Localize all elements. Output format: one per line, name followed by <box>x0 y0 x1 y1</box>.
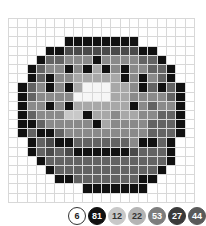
grid-cell[interactable] <box>83 74 92 83</box>
grid-cell[interactable] <box>37 93 46 102</box>
grid-cell[interactable] <box>74 37 83 46</box>
grid-cell[interactable] <box>186 37 195 46</box>
grid-cell[interactable] <box>167 102 176 111</box>
grid-cell[interactable] <box>18 120 27 129</box>
grid-cell[interactable] <box>83 111 92 120</box>
grid-cell[interactable] <box>28 111 37 120</box>
grid-cell[interactable] <box>121 28 130 37</box>
grid-cell[interactable] <box>102 184 111 193</box>
grid-cell[interactable] <box>130 175 139 184</box>
palette-swatch[interactable]: 44 <box>188 207 206 225</box>
grid-cell[interactable] <box>130 157 139 166</box>
grid-cell[interactable] <box>158 111 167 120</box>
grid-cell[interactable] <box>74 56 83 65</box>
grid-cell[interactable] <box>46 175 55 184</box>
grid-cell[interactable] <box>9 47 18 56</box>
grid-cell[interactable] <box>9 19 18 28</box>
grid-cell[interactable] <box>148 37 157 46</box>
grid-cell[interactable] <box>55 56 64 65</box>
grid-cell[interactable] <box>46 129 55 138</box>
grid-cell[interactable] <box>176 102 185 111</box>
grid-cell[interactable] <box>28 102 37 111</box>
grid-cell[interactable] <box>111 120 120 129</box>
grid-cell[interactable] <box>37 157 46 166</box>
grid-cell[interactable] <box>93 129 102 138</box>
grid-cell[interactable] <box>186 111 195 120</box>
grid-cell[interactable] <box>55 129 64 138</box>
grid-cell[interactable] <box>186 56 195 65</box>
grid-cell[interactable] <box>93 37 102 46</box>
grid-cell[interactable] <box>93 120 102 129</box>
grid-cell[interactable] <box>74 157 83 166</box>
grid-cell[interactable] <box>111 184 120 193</box>
grid-cell[interactable] <box>167 194 176 203</box>
grid-cell[interactable] <box>186 19 195 28</box>
grid-cell[interactable] <box>148 194 157 203</box>
grid-cell[interactable] <box>55 138 64 147</box>
grid-cell[interactable] <box>55 120 64 129</box>
grid-cell[interactable] <box>102 120 111 129</box>
grid-cell[interactable] <box>37 56 46 65</box>
grid-cell[interactable] <box>37 19 46 28</box>
grid-cell[interactable] <box>148 65 157 74</box>
grid-cell[interactable] <box>186 194 195 203</box>
grid-cell[interactable] <box>83 65 92 74</box>
grid-cell[interactable] <box>55 175 64 184</box>
grid-cell[interactable] <box>37 102 46 111</box>
grid-cell[interactable] <box>111 111 120 120</box>
grid-cell[interactable] <box>28 138 37 147</box>
grid-cell[interactable] <box>130 28 139 37</box>
grid-cell[interactable] <box>46 56 55 65</box>
grid-cell[interactable] <box>176 175 185 184</box>
grid-cell[interactable] <box>158 175 167 184</box>
grid-cell[interactable] <box>83 102 92 111</box>
grid-cell[interactable] <box>46 157 55 166</box>
grid-cell[interactable] <box>37 74 46 83</box>
grid-cell[interactable] <box>111 19 120 28</box>
grid-cell[interactable] <box>148 148 157 157</box>
grid-cell[interactable] <box>74 19 83 28</box>
grid-cell[interactable] <box>46 184 55 193</box>
grid-cell[interactable] <box>65 148 74 157</box>
grid-cell[interactable] <box>158 47 167 56</box>
grid-cell[interactable] <box>176 138 185 147</box>
palette-swatch[interactable]: 22 <box>128 207 146 225</box>
grid-cell[interactable] <box>28 83 37 92</box>
grid-cell[interactable] <box>83 184 92 193</box>
grid-cell[interactable] <box>9 37 18 46</box>
grid-cell[interactable] <box>121 157 130 166</box>
grid-cell[interactable] <box>65 102 74 111</box>
grid-cell[interactable] <box>167 111 176 120</box>
grid-cell[interactable] <box>176 194 185 203</box>
grid-cell[interactable] <box>121 102 130 111</box>
grid-cell[interactable] <box>18 74 27 83</box>
grid-cell[interactable] <box>46 111 55 120</box>
grid-cell[interactable] <box>74 184 83 193</box>
grid-cell[interactable] <box>139 28 148 37</box>
grid-cell[interactable] <box>74 102 83 111</box>
grid-cell[interactable] <box>93 28 102 37</box>
grid-cell[interactable] <box>167 19 176 28</box>
grid-cell[interactable] <box>74 83 83 92</box>
grid-cell[interactable] <box>83 47 92 56</box>
grid-cell[interactable] <box>65 28 74 37</box>
grid-cell[interactable] <box>74 65 83 74</box>
grid-cell[interactable] <box>18 93 27 102</box>
grid-cell[interactable] <box>83 19 92 28</box>
grid-cell[interactable] <box>139 102 148 111</box>
grid-cell[interactable] <box>130 74 139 83</box>
palette-swatch[interactable]: 53 <box>148 207 166 225</box>
grid-cell[interactable] <box>102 56 111 65</box>
grid-cell[interactable] <box>130 65 139 74</box>
grid-cell[interactable] <box>148 111 157 120</box>
grid-cell[interactable] <box>139 19 148 28</box>
grid-cell[interactable] <box>176 157 185 166</box>
grid-cell[interactable] <box>18 19 27 28</box>
grid-cell[interactable] <box>130 47 139 56</box>
grid-cell[interactable] <box>176 184 185 193</box>
grid-cell[interactable] <box>139 47 148 56</box>
grid-cell[interactable] <box>139 175 148 184</box>
grid-cell[interactable] <box>93 148 102 157</box>
grid-cell[interactable] <box>65 194 74 203</box>
grid-cell[interactable] <box>158 148 167 157</box>
